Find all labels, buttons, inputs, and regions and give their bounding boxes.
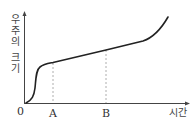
y-label-char: 기 xyxy=(9,63,21,74)
marker-b-label: B xyxy=(102,108,110,119)
x-axis-label: 시간 xyxy=(169,107,187,118)
y-label-char: 주 xyxy=(9,25,21,36)
graph-canvas xyxy=(0,0,191,126)
marker-a-label: A xyxy=(49,108,57,119)
y-label-char: 우 xyxy=(9,14,21,25)
y-axis-arrow-icon xyxy=(23,11,27,16)
y-label-char: 크 xyxy=(9,52,21,63)
y-axis-label: 우 주 의 크 기 xyxy=(9,14,21,74)
x-axis-arrow-icon xyxy=(185,102,190,106)
universe-size-curve xyxy=(26,17,168,103)
origin-label: 0 xyxy=(17,106,24,117)
y-label-char: 의 xyxy=(9,36,21,47)
